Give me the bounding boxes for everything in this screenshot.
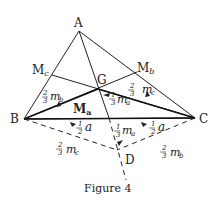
- label-two-thirds-mb-dashed: 2 3 m b: [160, 144, 184, 160]
- svg-text:2: 2: [77, 128, 83, 136]
- medians: [24, 31, 195, 119]
- svg-text:c: c: [75, 149, 79, 157]
- svg-text:a: a: [85, 120, 92, 134]
- arrow-icon: [103, 93, 110, 97]
- arrow-icon: [70, 122, 76, 127]
- label-two-thirds-mb: 2 3 m b: [42, 89, 64, 105]
- svg-text:3: 3: [58, 149, 63, 157]
- geometry-figure: A B C G D Mc Mb Ma 2 3 m b 2 3 m c 1 3 m…: [0, 0, 220, 205]
- svg-text:3: 3: [130, 90, 135, 98]
- label-g: G: [97, 73, 107, 87]
- label-one-third-ma-lower: 1 3 m a: [114, 123, 135, 139]
- label-b: B: [10, 112, 19, 126]
- svg-text:2: 2: [150, 128, 156, 136]
- svg-text:a: a: [126, 99, 130, 107]
- svg-text:a: a: [131, 130, 135, 138]
- svg-text:1: 1: [111, 91, 115, 99]
- label-a: A: [73, 16, 83, 30]
- label-two-thirds-mc: 2 3 m c: [128, 82, 155, 98]
- svg-text:2: 2: [161, 144, 167, 152]
- svg-text:c: c: [151, 89, 155, 97]
- label-mc: Mc: [32, 63, 49, 78]
- svg-text:b: b: [59, 96, 64, 104]
- triangle-abc: [24, 31, 195, 119]
- svg-text:3: 3: [43, 97, 48, 105]
- label-d: D: [125, 153, 135, 167]
- label-half-a-right: 1 2 a: [149, 120, 165, 136]
- svg-text:a: a: [158, 120, 165, 134]
- arrow-icon: [117, 140, 123, 146]
- svg-text:3: 3: [116, 131, 121, 139]
- svg-text:1: 1: [151, 120, 155, 128]
- svg-text:1: 1: [116, 123, 120, 131]
- svg-text:3: 3: [111, 99, 116, 107]
- svg-text:b: b: [179, 152, 184, 160]
- svg-text:2: 2: [42, 89, 48, 97]
- svg-text:1: 1: [78, 120, 82, 128]
- svg-text:3: 3: [162, 152, 167, 160]
- label-mb: Mb: [137, 61, 154, 76]
- label-ma: Ma: [73, 102, 91, 117]
- label-one-third-ma-upper: 1 3 m a: [109, 91, 130, 107]
- label-two-thirds-mc-dashed: 2 3 m c: [56, 141, 79, 157]
- figure-caption: Figure 4: [84, 182, 132, 195]
- svg-text:2: 2: [57, 141, 63, 149]
- label-c: C: [199, 112, 208, 126]
- label-half-a-left: 1 2 a: [76, 120, 92, 136]
- arrow-icon: [141, 122, 147, 127]
- svg-text:2: 2: [129, 82, 135, 90]
